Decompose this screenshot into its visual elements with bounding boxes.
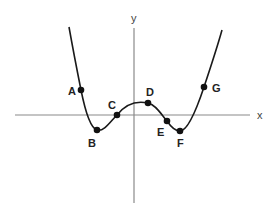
svg-text:B: B xyxy=(88,137,96,149)
point-G: G xyxy=(201,82,221,94)
point-E: E xyxy=(157,118,170,138)
svg-text:F: F xyxy=(177,137,184,149)
point-D: D xyxy=(145,86,154,106)
svg-text:A: A xyxy=(68,85,76,97)
point-F: F xyxy=(177,128,184,149)
svg-text:C: C xyxy=(108,99,116,111)
y-axis-label: y xyxy=(131,12,137,24)
function-graph: x y A B C D E F G xyxy=(0,0,273,213)
x-axis-label: x xyxy=(257,109,263,121)
svg-text:D: D xyxy=(146,86,154,98)
point-B: B xyxy=(88,127,100,149)
svg-text:G: G xyxy=(212,82,221,94)
svg-text:E: E xyxy=(157,126,164,138)
